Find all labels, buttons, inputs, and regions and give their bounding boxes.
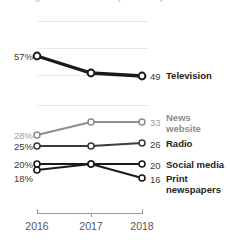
series-radio [34,140,145,149]
x-axis-tick-2017 [91,213,92,217]
left-value-label-print-newspapers: 18% [3,173,33,184]
left-value-label-social-media: 20% [3,159,33,170]
left-value-label-radio: 25% [3,141,33,152]
end-value-radio: 26 [150,139,161,150]
series-label-social-media: Social media [166,160,224,171]
line-chart-figure: often get news on each platform (% of U.… [0,0,230,245]
x-axis-label-2017: 2017 [71,220,111,232]
x-axis-tick-2016 [37,209,38,214]
end-value-print-newspapers: 16 [150,174,161,185]
series-social-media [34,161,145,167]
x-axis-label-2016: 2016 [17,220,57,232]
left-value-label-news-website: 28% [3,130,33,141]
left-value-label-television: 57% [3,51,33,62]
end-value-television: 49 [150,71,161,82]
series-news-website [34,119,145,138]
series-television [34,53,146,80]
x-axis-label-2018: 2018 [122,220,162,232]
x-axis-tick-2018 [142,209,143,214]
series-label-television: Television [166,71,212,82]
end-value-social-media: 20 [150,160,161,171]
series-label-news-website: News website [166,113,201,134]
end-value-news-website: 33 [150,117,161,128]
series-label-radio: Radio [166,139,192,150]
x-axis-line [37,213,143,214]
series-label-print-newspapers: Print newspapers [166,174,221,195]
